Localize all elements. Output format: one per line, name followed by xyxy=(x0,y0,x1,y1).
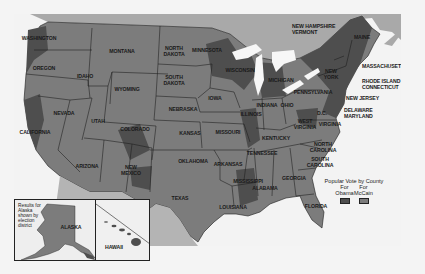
state-label-minnesota: MINNESOTA xyxy=(192,48,222,54)
state-label-kentucky: KENTUCKY xyxy=(262,136,290,142)
state-label-alabama: ALABAMA xyxy=(252,186,278,192)
alaska-inset: Results for Alaska shown by election dis… xyxy=(14,199,96,261)
state-label-arkansas: ARKANSAS xyxy=(214,162,243,168)
state-label-north-carolina: NORTH CAROLINA xyxy=(310,142,337,153)
state-label-oklahoma: OKLAHOMA xyxy=(178,159,208,165)
hawaii-label: HAWAII xyxy=(105,245,123,251)
state-label-north-dakota: NORTH DAKOTA xyxy=(163,46,184,57)
legend-obama-line2: Obama xyxy=(335,190,353,196)
legend-mccain-line2: McCain xyxy=(354,190,373,196)
alaska-label: ALASKA xyxy=(60,225,81,231)
state-label-iowa: IOWA xyxy=(208,96,221,102)
legend-item-mccain: For McCain xyxy=(356,184,372,204)
state-label-west-virginia: WEST VIRGINIA xyxy=(294,119,316,130)
state-label-new-hampshire-vermont: NEW HAMPSHIRE VERMONT xyxy=(292,24,335,35)
state-label-kansas: KANSAS xyxy=(179,131,200,137)
nova-scotia xyxy=(384,32,401,46)
state-label-michigan: MICHIGAN xyxy=(268,78,293,84)
state-label-new-york: NEW YORK xyxy=(324,69,339,80)
legend-item-obama: For Obama xyxy=(337,184,353,204)
state-label-massachusetts: MASSACHUSETTS xyxy=(362,64,401,70)
state-label-dc: D.C. xyxy=(317,111,327,117)
state-label-pennsylvania: PENNSYLVANIA xyxy=(294,90,333,96)
state-label-mississippi: MISSISSIPPI xyxy=(233,179,263,185)
state-label-new-mexico: NEW MEXICO xyxy=(121,165,141,176)
state-label-colorado: COLORADO xyxy=(120,127,149,133)
state-label-rhode-island-connecticut: RHODE ISLAND CONNECTICUT xyxy=(362,79,400,90)
state-label-new-jersey: NEW JERSEY xyxy=(346,96,379,102)
state-label-texas: TEXAS xyxy=(172,196,189,202)
state-label-arizona: ARIZONA xyxy=(76,164,99,170)
election-map: WASHINGTONOREGONCALIFORNIANEVADAIDAHOMON… xyxy=(0,0,425,274)
state-label-california: CALIFORNIA xyxy=(20,130,51,136)
state-label-missouri: MISSOURI xyxy=(216,130,241,136)
hawaii-shape xyxy=(96,200,150,261)
state-label-nevada: NEVADA xyxy=(54,111,75,117)
state-label-washington: WASHINGTON xyxy=(22,36,57,42)
state-label-nebraska: NEBRASKA xyxy=(169,107,198,113)
alaska-note: Results for Alaska shown by election dis… xyxy=(18,203,41,228)
state-label-ohio: OHIO xyxy=(281,103,294,109)
legend: Popular Vote by County For Obama For McC… xyxy=(314,178,394,204)
state-label-idaho: IDAHO xyxy=(77,74,93,80)
state-label-utah: UTAH xyxy=(91,119,105,125)
state-label-florida: FLORIDA xyxy=(305,204,327,210)
state-label-south-carolina: SOUTH CAROLINA xyxy=(307,157,334,168)
state-label-maine: MAINE xyxy=(354,35,370,41)
state-label-wisconsin: WISCONSIN xyxy=(225,68,254,74)
hawaii-inset: HAWAII xyxy=(96,199,150,261)
legend-mccain-swatch xyxy=(359,198,369,204)
state-label-louisiana: LOUISIANA xyxy=(219,205,247,211)
legend-title: Popular Vote by County xyxy=(314,178,394,184)
state-label-indiana: INDIANA xyxy=(257,103,278,109)
state-label-oregon: OREGON xyxy=(33,66,55,72)
state-label-georgia: GEORGIA xyxy=(282,176,306,182)
legend-obama-swatch xyxy=(340,198,350,204)
state-label-south-dakota: SOUTH DAKOTA xyxy=(163,75,184,86)
state-label-illinois: ILLINOIS xyxy=(240,112,261,118)
state-label-wyoming: WYOMING xyxy=(114,87,139,93)
state-label-montana: MONTANA xyxy=(109,49,134,55)
state-label-delaware-maryland: DELAWARE MARYLAND xyxy=(344,108,373,119)
state-label-virginia: VIRGINIA xyxy=(319,122,341,128)
state-label-tennessee: TENNESSEE xyxy=(247,151,278,157)
